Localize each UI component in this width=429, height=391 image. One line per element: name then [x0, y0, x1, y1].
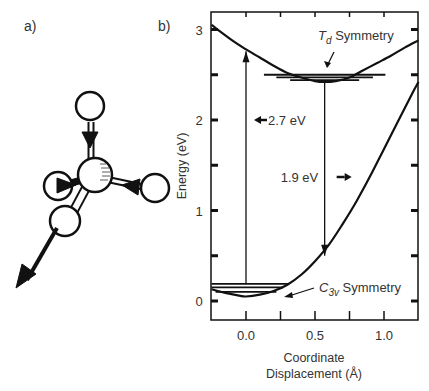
- potential-curves: [212, 25, 419, 297]
- arrow-right-icon: [345, 173, 352, 181]
- transition-arrows: 2.7 eV1.9 eV: [243, 51, 352, 284]
- td-pointer-arrow: [324, 52, 334, 68]
- y-tick-label: 2: [195, 113, 202, 128]
- central-atom: [78, 158, 112, 192]
- x-tick-label: 0.5: [306, 328, 324, 343]
- figure: a) b): [0, 0, 429, 391]
- c3v-symmetry-annotation: C3v Symmetry: [319, 280, 402, 298]
- x-tick-labels: 0.00.51.0: [237, 328, 393, 343]
- arrow-top-icon: [82, 132, 98, 148]
- y-tick-label: 0: [195, 294, 202, 309]
- emission-energy-label: 1.9 eV: [281, 170, 319, 185]
- c3v-symmetry-text: Symmetry: [339, 280, 402, 295]
- c3v-pointer-arrow: [284, 288, 314, 298]
- c3v-pointer-line: [292, 288, 314, 295]
- absorption-arrowhead-icon: [243, 51, 250, 62]
- panel-b-label: b): [158, 18, 170, 34]
- absorption-energy-label: 2.7 eV: [268, 113, 306, 128]
- ligand-atom-right: [141, 174, 169, 202]
- x-tick-label: 1.0: [375, 328, 393, 343]
- x-tick-label: 0.0: [237, 328, 255, 343]
- ligand-atom-top: [76, 92, 104, 120]
- arrow-left-icon: [254, 116, 261, 124]
- energy-diagram-chart: 0123 0.00.51.0 2.7 eV1.9 eV Energy (eV) …: [175, 12, 419, 381]
- y-tick-labels: 0123: [195, 23, 202, 310]
- molecule-diagram: [16, 92, 169, 288]
- td-symmetry-text: Symmetry: [332, 28, 395, 43]
- y-tick-label: 3: [195, 23, 202, 38]
- td-pointer-line: [328, 52, 334, 64]
- c3v-pointer-head-icon: [284, 292, 293, 298]
- td-pointer-head-icon: [324, 61, 331, 68]
- td-symmetry-annotation: Td Symmetry: [318, 28, 394, 46]
- y-tick-label: 1: [195, 204, 202, 219]
- y-axis-label: Energy (eV): [175, 133, 189, 200]
- panel-a-label: a): [24, 18, 36, 34]
- x-axis-label-line1: Coordinate: [283, 351, 344, 365]
- lower-potential-curve: [212, 82, 419, 297]
- x-axis-label-line2: Displacement (Å): [266, 366, 362, 381]
